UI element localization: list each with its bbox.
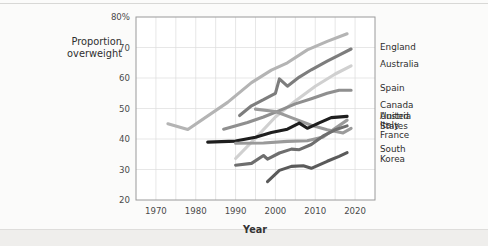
y-tick-label: 80% [111, 12, 130, 22]
y-tick-label: 60 [119, 73, 130, 83]
series-label-canada: Canada [380, 100, 413, 110]
x-tick-label: 2020 [344, 206, 366, 216]
series-label-england: England [380, 42, 416, 52]
x-axis-ticks: 197019801990200020102020 [145, 206, 366, 216]
x-axis-title: Year [242, 224, 267, 235]
series-label-australia: Australia [380, 59, 419, 69]
y-tick-label: 20 [119, 195, 130, 205]
series-label-france: France [380, 130, 409, 140]
x-tick-label: 1970 [145, 206, 167, 216]
x-tick-label: 1990 [225, 206, 247, 216]
series-label-spain: Spain [380, 83, 405, 93]
y-axis-title-line2: overweight [67, 48, 122, 59]
figure-container: 20304050607080% 197019801990200020102020… [0, 0, 488, 246]
x-tick-label: 1980 [185, 206, 207, 216]
x-tick-label: 2010 [304, 206, 326, 216]
series-label-south-korea: Korea [380, 154, 405, 164]
y-tick-label: 40 [119, 134, 130, 144]
series-label-italy: Italy [380, 120, 399, 130]
line-chart: 20304050607080% 197019801990200020102020… [0, 0, 488, 246]
y-tick-label: 30 [119, 165, 130, 175]
y-axis-title-line1: Proportion [71, 36, 122, 47]
x-tick-label: 2000 [264, 206, 286, 216]
series-label-south-korea: South [380, 144, 406, 154]
series-labels: UnitedStatesEnglandAustraliaSpainCanadaA… [380, 42, 419, 164]
y-tick-label: 50 [119, 104, 130, 114]
